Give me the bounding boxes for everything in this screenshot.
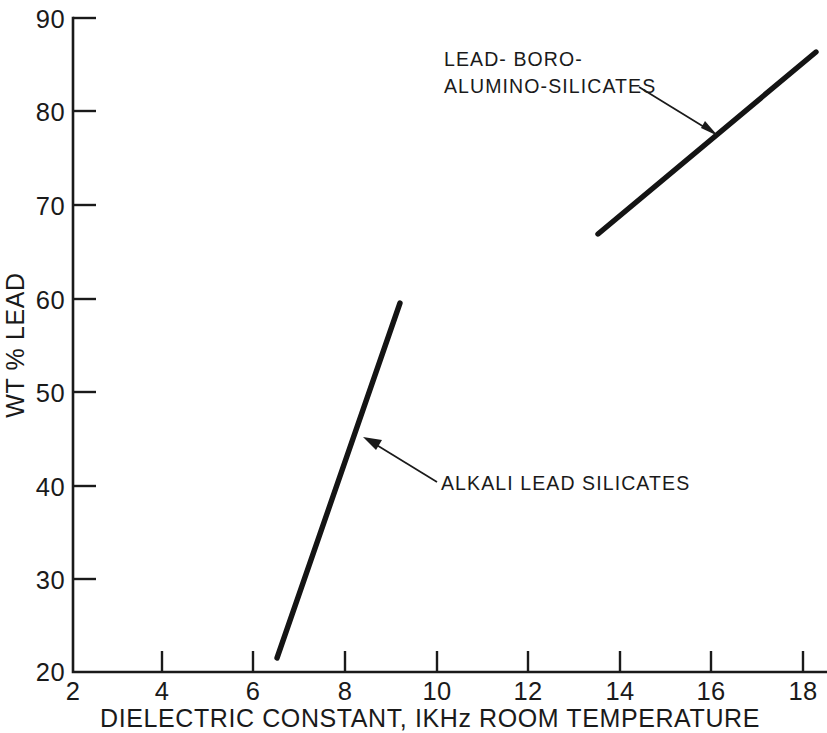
- axis-spines: [73, 18, 827, 672]
- x-tick-label-6: 6: [246, 677, 261, 705]
- y-tick-label-40: 40: [36, 473, 65, 501]
- y-axis-ticks: [73, 18, 96, 579]
- x-tick-label-8: 8: [338, 677, 353, 705]
- y-tick-label-60: 60: [36, 286, 65, 314]
- x-tick-labels: 2 4 6 8 10 12 14 16 18: [66, 677, 818, 705]
- x-axis-ticks: [162, 651, 803, 672]
- x-tick-label-10: 10: [422, 677, 451, 705]
- y-tick-label-50: 50: [36, 379, 65, 407]
- x-axis-title: DIELECTRIC CONSTANT, IKHz ROOM TEMPERATU…: [100, 704, 760, 732]
- series-line-alkali-lead-silicates: [277, 303, 400, 658]
- chart-figure: 90 80 70 60 50 40 30 20 2 4 6 8 10 12 14…: [0, 0, 827, 733]
- y-tick-labels: 90 80 70 60 50 40 30 20: [36, 5, 65, 686]
- annotation-lower-line1: ALKALI LEAD SILICATES: [441, 472, 690, 494]
- annotation-upper-line2: ALUMINO-SILICATES: [444, 75, 656, 97]
- y-axis-title: WT % LEAD: [1, 272, 29, 417]
- annotation-upper-line1: LEAD- BORO-: [444, 48, 583, 70]
- chart-canvas: 90 80 70 60 50 40 30 20 2 4 6 8 10 12 14…: [0, 0, 827, 733]
- x-tick-label-14: 14: [605, 677, 634, 705]
- arrow-head-lower: [363, 437, 382, 450]
- y-tick-label-90: 90: [36, 5, 65, 33]
- y-tick-label-30: 30: [36, 566, 65, 594]
- x-tick-label-2: 2: [66, 677, 81, 705]
- x-tick-label-4: 4: [155, 677, 170, 705]
- x-tick-label-12: 12: [513, 677, 542, 705]
- y-tick-label-70: 70: [36, 192, 65, 220]
- annotation-leader-lower: [363, 437, 437, 482]
- y-tick-label-80: 80: [36, 98, 65, 126]
- arrow-head-upper: [701, 121, 718, 136]
- x-tick-label-18: 18: [788, 677, 817, 705]
- x-tick-label-16: 16: [696, 677, 725, 705]
- y-tick-label-20: 20: [36, 658, 65, 686]
